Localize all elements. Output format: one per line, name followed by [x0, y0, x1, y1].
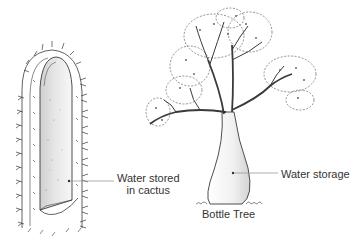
bottle-tree-caption: Bottle Tree	[202, 208, 255, 220]
cactus-water-label: Water stored in cactus	[117, 172, 180, 196]
cactus-label-line2: in cactus	[117, 184, 180, 196]
cactus-leader-line	[68, 180, 114, 182]
cactus-drawing	[16, 41, 88, 236]
illustration	[0, 0, 362, 246]
cactus-label-line1: Water stored	[117, 172, 180, 184]
bottle-water-label: Water storage	[281, 168, 350, 180]
bottle-tree-canopy	[146, 8, 316, 126]
